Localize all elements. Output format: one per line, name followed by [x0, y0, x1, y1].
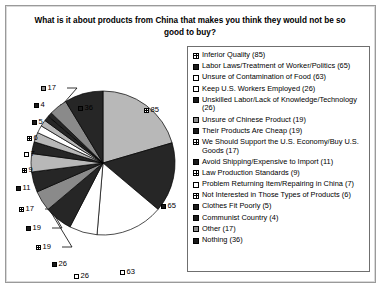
legend-item: Nothing (36) [193, 236, 366, 245]
legend-item-label: We Should Support the U.S. Economy/Buy U… [202, 138, 366, 155]
legend-item: Inferior Quality (85) [193, 51, 366, 60]
legend-swatch-icon [193, 215, 199, 221]
slice-swatch-icon [24, 152, 29, 157]
legend-swatch-icon [193, 97, 199, 103]
legend-item-label: Unsure of Chinese Product (19) [202, 116, 306, 125]
legend-item-label: Law Production Standards (9) [202, 169, 300, 178]
legend-swatch-icon [193, 139, 199, 145]
slice-swatch-icon [22, 168, 27, 173]
slice-swatch-icon [74, 274, 79, 279]
legend-item-label: Their Products Are Cheap (19) [202, 127, 302, 136]
legend-item-label: Not Interested in Those Types of Product… [202, 191, 351, 200]
legend-item: Clothes Fit Poorly (5) [193, 202, 366, 211]
legend-item: Problem Returning Item/Repairing in Chin… [193, 180, 366, 189]
slice-swatch-icon [32, 120, 37, 125]
legend-swatch-icon [193, 204, 199, 210]
slice-swatch-icon [144, 108, 149, 113]
legend-item: Labor Laws/Treatment of Worker/Politics … [193, 62, 366, 71]
slice-swatch-icon [161, 204, 166, 209]
pie-chart-svg [6, 38, 186, 281]
legend-swatch-icon [193, 182, 199, 188]
legend-item: Unsure of Chinese Product (19) [193, 116, 366, 125]
slice-swatch-icon [78, 106, 83, 111]
legend-swatch-icon [193, 170, 199, 176]
slice-value-label: 26 [74, 272, 89, 280]
legend-swatch-icon [193, 75, 199, 81]
chart-screenshot: What is it about products from China tha… [0, 0, 382, 296]
slice-value-text: 36 [85, 103, 93, 112]
legend-item-label: Communist Country (4) [202, 214, 278, 223]
slice-swatch-icon [34, 103, 39, 108]
legend-item: Law Production Standards (9) [193, 169, 366, 178]
slice-value-label: 11 [16, 184, 30, 192]
slice-value-label: 9 [22, 166, 33, 174]
legend-item: Their Products Are Cheap (19) [193, 127, 366, 136]
slice-value-text: 65 [168, 201, 176, 210]
slice-swatch-icon [26, 226, 31, 231]
slice-value-text: 19 [43, 242, 51, 251]
legend-swatch-icon [193, 193, 199, 199]
legend-item: We Should Support the U.S. Economy/Buy U… [193, 138, 366, 155]
slice-value-label: 17 [41, 84, 56, 92]
slice-value-label: 19 [26, 224, 41, 232]
slice-value-text: 4 [41, 100, 45, 109]
slice-swatch-icon [36, 245, 41, 250]
legend-swatch-icon [193, 86, 199, 92]
slice-value-label: 19 [36, 243, 51, 251]
legend-item-label: Keep U.S. Workers Employed (26) [202, 85, 315, 94]
slice-swatch-icon [41, 86, 46, 91]
legend-item-label: Nothing (36) [202, 236, 243, 245]
slice-value-text: 17 [26, 204, 34, 213]
slice-value-label: 36 [78, 104, 93, 112]
legend-item-label: Unsure of Contamination of Food (63) [202, 73, 326, 82]
slice-value-text: 9 [29, 165, 33, 174]
slice-value-text: 17 [48, 83, 56, 92]
slice-value-text: 7 [31, 149, 35, 158]
legend-item-label: Avoid Shipping/Expensive to Import (11) [202, 158, 333, 167]
legend-item: Other (17) [193, 225, 366, 234]
slice-value-label: 65 [161, 202, 176, 210]
slice-value-label: 26 [52, 260, 67, 268]
legend-item: Communist Country (4) [193, 214, 366, 223]
legend-item-label: Labor Laws/Treatment of Worker/Politics … [202, 62, 350, 71]
slice-value-label: 63 [120, 268, 135, 276]
legend-item-label: Unskilled Labor/Lack of Knowledge/Techno… [202, 96, 366, 113]
legend-item: Avoid Shipping/Expensive to Import (11) [193, 158, 366, 167]
legend-swatch-icon [193, 159, 199, 165]
legend-item: Not Interested in Those Types of Product… [193, 191, 366, 200]
legend-swatch-icon [193, 117, 199, 123]
slice-value-text: 26 [81, 271, 89, 280]
slice-value-text: 6 [34, 133, 38, 142]
slice-swatch-icon [120, 270, 125, 275]
slice-value-label: 7 [24, 150, 35, 158]
slice-value-label: 17 [19, 205, 34, 213]
slice-value-text: 85 [151, 105, 159, 114]
slice-value-label: 5 [32, 118, 43, 126]
legend-item-label: Clothes Fit Poorly (5) [202, 202, 271, 211]
slice-swatch-icon [52, 262, 57, 267]
slice-value-text: 19 [33, 223, 41, 232]
pie-plot-area: 853617456791117191926266365 [6, 38, 186, 281]
legend-swatch-icon [193, 64, 199, 70]
slice-swatch-icon [27, 136, 32, 141]
legend-item-label: Inferior Quality (85) [202, 51, 265, 60]
chart-title: What is it about products from China tha… [30, 15, 350, 38]
slice-value-text: 26 [59, 259, 67, 268]
slice-value-text: 63 [127, 267, 135, 276]
slice-value-label: 85 [144, 106, 159, 114]
legend-swatch-icon [193, 53, 199, 59]
slice-swatch-icon [16, 186, 21, 191]
slice-value-text: 5 [39, 117, 43, 126]
legend-item-label: Problem Returning Item/Repairing in Chin… [202, 180, 354, 189]
slice-swatch-icon [19, 207, 24, 212]
legend-item-label: Other (17) [202, 225, 236, 234]
slice-value-text: 11 [23, 183, 31, 192]
legend-item: Unskilled Labor/Lack of Knowledge/Techno… [193, 96, 366, 113]
legend-item: Keep U.S. Workers Employed (26) [193, 85, 366, 94]
slice-value-label: 4 [34, 101, 45, 109]
chart-legend: Inferior Quality (85)Labor Laws/Treatmen… [187, 46, 370, 272]
legend-item: Unsure of Contamination of Food (63) [193, 73, 366, 82]
slice-value-label: 6 [27, 134, 38, 142]
legend-swatch-icon [193, 128, 199, 134]
legend-swatch-icon [193, 238, 199, 244]
